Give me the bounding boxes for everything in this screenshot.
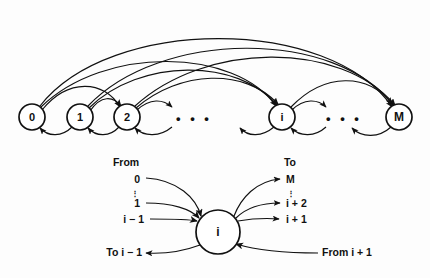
state-transition-figure: 0 1 2 i M • • • • • • [0,0,430,278]
arc-0-to-i [41,61,276,107]
to-label-i-plus-2: i + 2 [286,197,307,209]
bottom-left-label: To i − 1 [106,246,142,258]
detail-state-node-i-label: i [216,225,219,239]
arc-from-1 [146,203,199,218]
state-node-0-label: 0 [29,111,35,123]
detail-headings: From To [113,156,296,168]
arc-1-to-0 [40,127,72,135]
ellipsis-left: • • • [176,111,212,126]
to-heading: To [284,156,296,168]
top-forward-arcs [40,39,395,111]
from-label-0: 0 [134,173,140,185]
arc-next-to-i [291,127,326,135]
arc-from-i-plus-1 [236,244,318,253]
arc-i-to-prev [240,127,274,135]
detail-from-labels: 0 ⋮ 1 i − 1 [123,173,144,225]
arc-next-to-2 [135,127,172,135]
diagram-canvas: 0 1 2 i M • • • • • • [0,0,430,278]
arc-i-to-next [292,101,326,110]
detail-center-node-group: i [196,210,240,254]
detail-bottom-labels: To i − 1 From i + 1 [106,246,372,258]
ellipsis-right: • • • [326,111,362,126]
arc-2-to-i [136,78,278,108]
arc-M-to-prev [352,127,391,135]
state-node-2-label: 2 [124,111,130,123]
arc-to-M [234,179,280,216]
arc-from-i-minus-1 [150,219,197,221]
state-node-1-label: 1 [77,111,83,123]
to-label-i-plus-1: i + 1 [286,213,307,225]
to-label-M: M [286,173,295,185]
state-node-M-label: M [394,110,404,124]
arc-to-i-minus-1 [146,245,200,253]
from-label-i-minus-1: i − 1 [123,213,144,225]
from-label-1: 1 [134,197,140,209]
arc-to-i-plus-1 [238,219,279,221]
arc-2-to-1 [88,127,119,135]
bottom-right-label: From i + 1 [322,246,372,258]
top-backward-arcs [40,127,391,135]
arc-i-to-M [291,81,392,107]
arc-to-i-plus-2 [236,203,280,218]
arc-from-0 [146,178,201,216]
detail-to-labels: M ⋮ i + 2 i + 1 [286,173,307,225]
from-heading: From [113,156,139,168]
state-node-i-label: i [280,111,283,123]
